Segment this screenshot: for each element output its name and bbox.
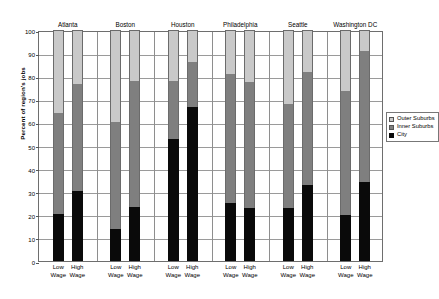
group-label: Boston [97,21,155,28]
segment-city [187,107,198,261]
segment-city [110,229,121,261]
outer-suburbs-swatch-icon [389,117,394,122]
segment-city [168,139,179,261]
segment-outer [72,30,83,84]
y-axis-title: Percent of region's jobs [19,24,26,184]
segment-outer [302,30,313,72]
bar-group-houston: HoustonLowWageHighWage [154,32,212,261]
segment-outer [340,30,351,91]
segment-city [72,191,83,261]
segment-inner [225,74,236,203]
legend-label-outer-suburbs: Outer Suburbs [397,116,435,122]
bar-group-boston: BostonLowWageHighWage [97,32,155,261]
bar-axis-label: HighWage [300,264,315,279]
segment-outer [283,30,294,104]
segment-outer [225,30,236,74]
group-label: Washington DC [327,21,385,28]
plot-area: 0102030405060708090100AtlantaLowWageHigh… [38,31,383,262]
bar-high-wage[interactable]: HighWage [359,30,370,261]
y-tick-mark [36,263,39,264]
y-tick-label: 100 [25,29,35,35]
y-tick-label: 20 [28,214,35,220]
bar-axis-label: LowWage [108,264,123,279]
bar-axis-label: HighWage [127,264,142,279]
bar-axis-label: LowWage [338,264,353,279]
bar-low-wage[interactable]: LowWage [168,30,179,261]
segment-outer [53,30,64,113]
segment-city [302,185,313,261]
segment-inner [129,81,140,207]
legend-item-outer-suburbs: Outer Suburbs [389,115,435,123]
y-tick-label: 0 [32,260,35,266]
bar-axis-label: LowWage [223,264,238,279]
segment-city [340,215,351,261]
bar-group-atlanta: AtlantaLowWageHighWage [39,32,97,261]
bar-low-wage[interactable]: LowWage [283,30,294,261]
bar-low-wage[interactable]: LowWage [340,30,351,261]
bar-axis-label: LowWage [281,264,296,279]
bar-group-seattle: SeattleLowWageHighWage [269,32,327,261]
bar-high-wage[interactable]: HighWage [187,30,198,261]
y-tick-label: 40 [28,168,35,174]
group-label: Seattle [269,21,327,28]
bar-high-wage[interactable]: HighWage [244,30,255,261]
y-tick-label: 90 [28,52,35,58]
segment-outer [244,30,255,82]
bar-axis-label: HighWage [357,264,372,279]
segment-inner [53,113,64,213]
segment-inner [359,51,370,183]
city-swatch-icon [389,133,394,138]
segment-inner [187,62,198,107]
chart-legend: Outer Suburbs Inner Suburbs City [386,112,439,142]
segment-city [129,207,140,261]
segment-city [359,182,370,261]
y-tick-label: 50 [28,145,35,151]
segment-city [244,208,255,261]
segment-outer [110,30,121,122]
legend-label-inner-suburbs: Inner Suburbs [397,124,433,130]
bar-axis-label: HighWage [242,264,257,279]
segment-inner [283,104,294,208]
group-label: Atlanta [39,21,97,28]
bar-group-philadelphia: PhiladelphiaLowWageHighWage [212,32,270,261]
bar-axis-label: HighWage [185,264,200,279]
segment-inner [340,91,351,215]
segment-outer [359,30,370,51]
bar-axis-label: HighWage [70,264,85,279]
bar-high-wage[interactable]: HighWage [129,30,140,261]
y-tick-label: 30 [28,191,35,197]
group-label: Philadelphia [212,21,270,28]
bar-high-wage[interactable]: HighWage [72,30,83,261]
segment-inner [244,82,255,208]
y-tick-label: 80 [28,75,35,81]
y-tick-label: 10 [28,237,35,243]
y-tick-label: 60 [28,121,35,127]
segment-outer [187,30,198,62]
inner-suburbs-swatch-icon [389,125,394,130]
segment-inner [110,122,121,228]
bar-axis-label: LowWage [166,264,181,279]
bar-high-wage[interactable]: HighWage [302,30,313,261]
bar-group-washington-dc: Washington DCLowWageHighWage [327,32,385,261]
segment-city [283,208,294,261]
legend-item-inner-suburbs: Inner Suburbs [389,123,435,131]
bar-axis-label: LowWage [51,264,66,279]
bar-low-wage[interactable]: LowWage [53,30,64,261]
legend-label-city: City [397,132,407,138]
bar-low-wage[interactable]: LowWage [225,30,236,261]
group-label: Houston [154,21,212,28]
segment-outer [129,30,140,81]
segment-city [53,214,64,261]
segment-inner [302,72,313,185]
segment-inner [168,81,179,139]
segment-city [225,203,236,261]
y-tick-label: 70 [28,98,35,104]
legend-item-city: City [389,131,435,139]
segment-outer [168,30,179,81]
bar-low-wage[interactable]: LowWage [110,30,121,261]
segment-inner [72,84,83,190]
